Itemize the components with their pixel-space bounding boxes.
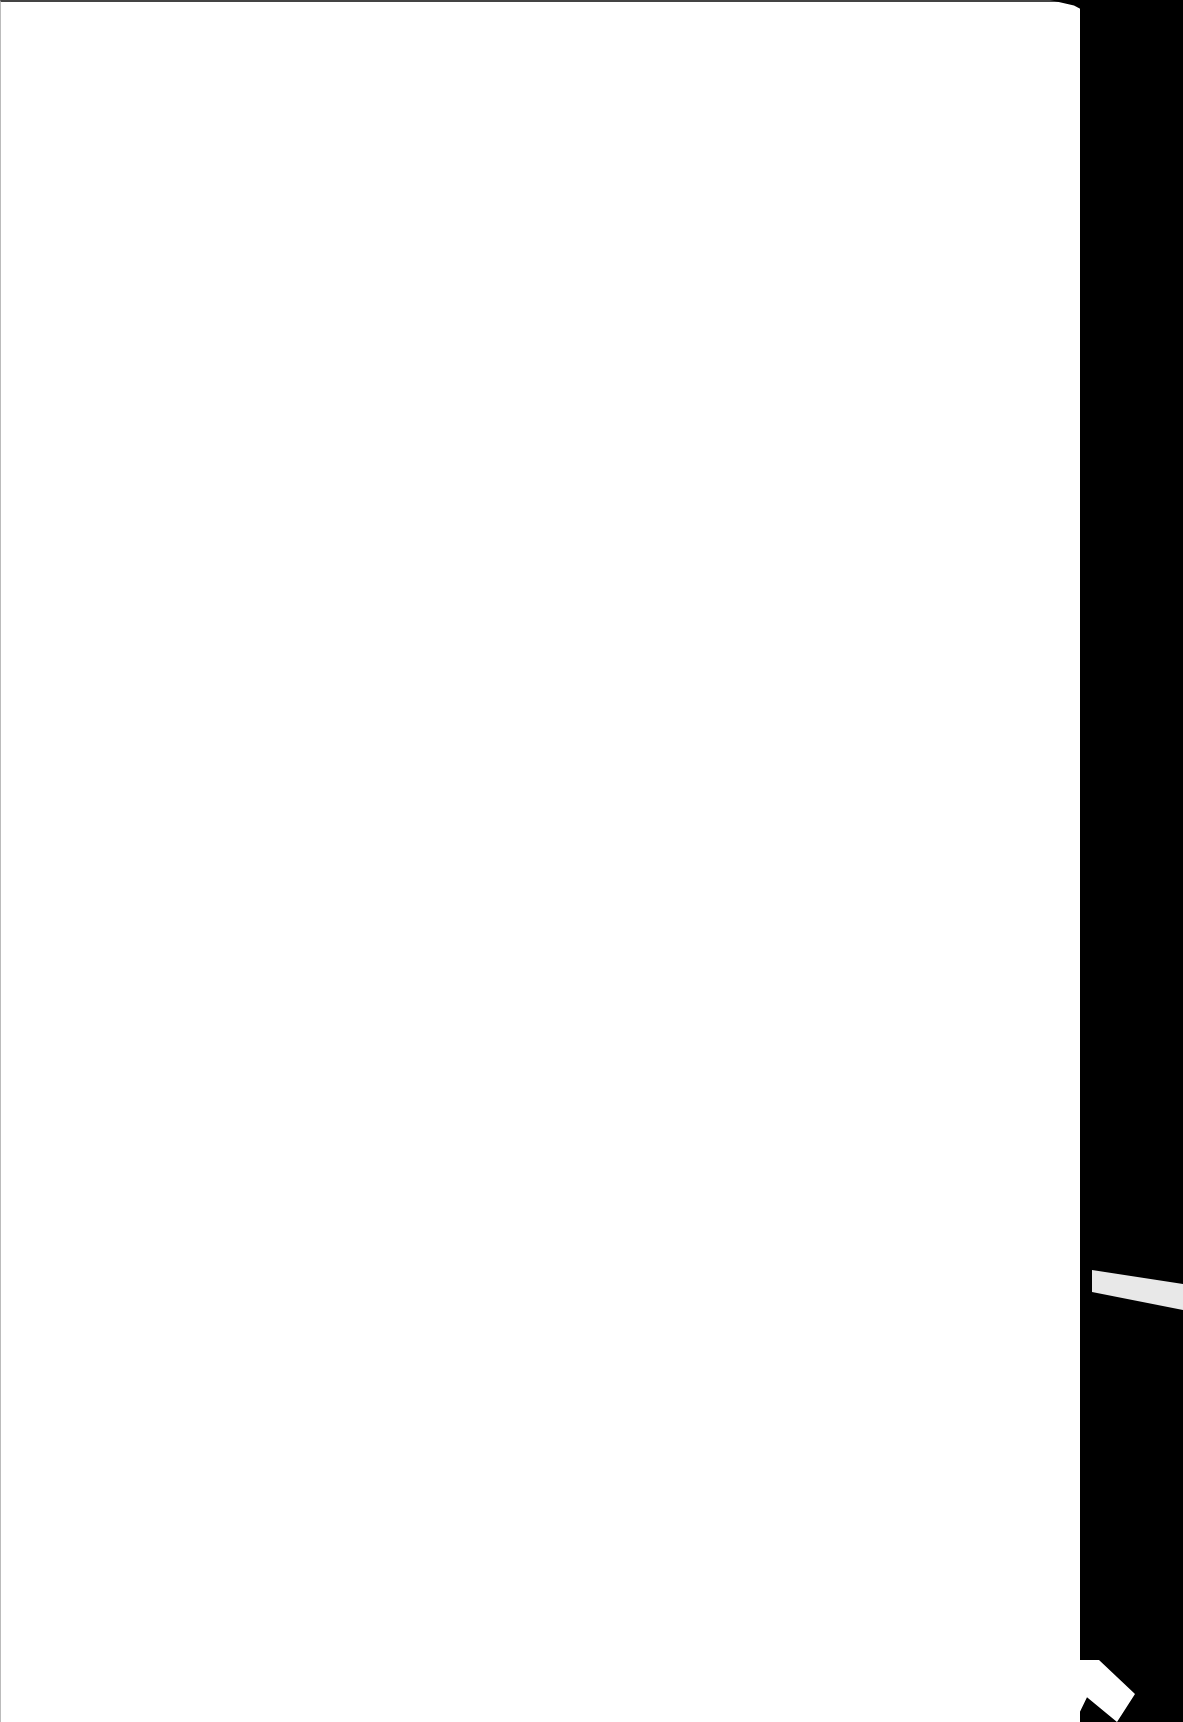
paper-strip xyxy=(1092,1270,1183,1310)
scanned-blank-page xyxy=(0,0,1080,1722)
page-content xyxy=(1,2,1080,1722)
torn-page-corner xyxy=(1075,1660,1135,1722)
